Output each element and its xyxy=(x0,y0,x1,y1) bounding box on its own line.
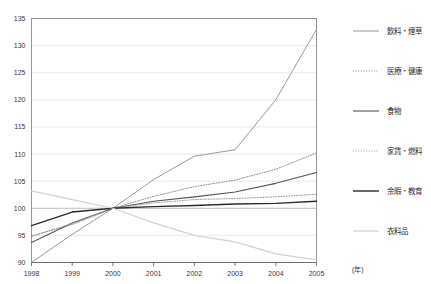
line-chart-figure: 9095100105110115120125130135 19981999200… xyxy=(0,0,431,284)
y-tick-label: 100 xyxy=(14,205,26,212)
x-tick-label: 2002 xyxy=(187,270,203,277)
y-tick-label: 110 xyxy=(14,151,25,158)
x-tick-label: 1998 xyxy=(24,270,40,277)
y-tick-label: 90 xyxy=(18,259,26,266)
x-tick-label: 1999 xyxy=(64,270,80,277)
x-tick-label: 2003 xyxy=(227,270,243,277)
legend-item-label[interactable]: 医療・健康 xyxy=(387,66,423,76)
x-axis-unit-label: (年) xyxy=(352,265,364,274)
y-tick-label: 125 xyxy=(14,69,26,76)
y-tick-label: 130 xyxy=(14,42,26,49)
chart-canvas: 9095100105110115120125130135 19981999200… xyxy=(0,0,431,284)
legend-item-label[interactable]: 衣料品 xyxy=(387,226,408,236)
x-tick-label: 2000 xyxy=(105,270,121,277)
y-tick-label: 105 xyxy=(14,178,26,185)
chart-background xyxy=(0,0,431,284)
x-tick-label: 2004 xyxy=(268,270,284,277)
y-tick-label: 135 xyxy=(14,15,26,22)
legend-item-label[interactable]: 飲料・煙草 xyxy=(387,26,423,36)
y-tick-label: 115 xyxy=(14,123,25,130)
legend-item-label[interactable]: 食物 xyxy=(387,106,402,116)
y-tick-label: 120 xyxy=(14,96,26,103)
legend-item-label[interactable]: 家賃・燃料 xyxy=(387,146,423,156)
x-tick-label: 2001 xyxy=(146,270,162,277)
x-tick-label: 2005 xyxy=(309,270,325,277)
legend-item-label[interactable]: 余暇・教育 xyxy=(387,186,423,196)
y-tick-label: 95 xyxy=(18,232,26,239)
